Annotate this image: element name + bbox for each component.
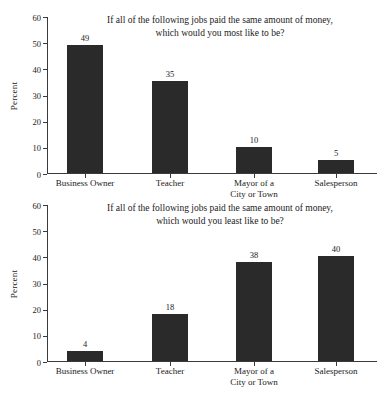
x-axis-category-label: Salesperson xyxy=(276,366,386,377)
y-tick-mark xyxy=(43,43,47,44)
y-tick: 30 xyxy=(47,284,51,285)
y-tick: 60 xyxy=(47,17,51,18)
y-tick-mark xyxy=(43,17,47,18)
y-tick-mark xyxy=(43,174,47,175)
x-axis-line xyxy=(47,361,377,362)
y-tick-label: 30 xyxy=(33,280,42,289)
x-axis-category-label-line-1: Business Owner xyxy=(56,178,115,188)
plot-area: 010203040506049Business Owner35Teacher10… xyxy=(47,17,377,174)
x-axis-category-label-line-1: Teacher xyxy=(156,178,184,188)
y-tick: 30 xyxy=(47,96,51,97)
y-axis-label: Percent xyxy=(8,17,20,174)
bar: 5 xyxy=(318,160,354,173)
y-tick-mark xyxy=(43,310,47,311)
y-tick-label: 20 xyxy=(33,306,42,315)
clipped-header-text: · · · · · · xyxy=(0,0,386,3)
y-tick: 60 xyxy=(47,205,51,206)
bar: 18 xyxy=(152,314,188,361)
bar-value-label: 10 xyxy=(250,136,259,145)
bar: 35 xyxy=(152,81,188,173)
y-tick-label: 40 xyxy=(33,65,42,74)
bar: 4 xyxy=(67,351,103,361)
y-tick-mark xyxy=(43,284,47,285)
y-tick-mark xyxy=(43,148,47,149)
y-tick: 20 xyxy=(47,310,51,311)
y-tick: 50 xyxy=(47,43,51,44)
x-axis-category-label-line-1: Mayor of a xyxy=(234,366,274,376)
x-axis-line xyxy=(47,173,377,174)
plot-area: 01020304050604Business Owner18Teacher38M… xyxy=(47,205,377,362)
y-tick-mark xyxy=(43,336,47,337)
bar: 10 xyxy=(236,147,272,173)
bar-value-label: 4 xyxy=(83,340,87,349)
y-tick: 40 xyxy=(47,257,51,258)
x-axis-category-label-line-1: Salesperson xyxy=(315,366,358,376)
y-tick-label: 10 xyxy=(33,332,42,341)
x-axis-category-label-line-1: Teacher xyxy=(156,366,184,376)
bar-value-label: 40 xyxy=(332,245,341,254)
y-tick-mark xyxy=(43,205,47,206)
y-tick-label: 50 xyxy=(33,227,42,236)
x-axis-category-label-line-1: Business Owner xyxy=(56,366,115,376)
x-axis-category-label-line-2: City or Town xyxy=(194,377,314,388)
figure-page: · · · · · · If all of the following jobs… xyxy=(0,0,386,403)
y-tick-mark xyxy=(43,96,47,97)
y-tick: 10 xyxy=(47,336,51,337)
bar-value-label: 5 xyxy=(334,149,338,158)
y-tick-label: 50 xyxy=(33,39,42,48)
y-tick-mark xyxy=(43,69,47,70)
y-tick-label: 60 xyxy=(33,201,42,210)
bar: 49 xyxy=(67,45,103,173)
y-tick: 40 xyxy=(47,69,51,70)
y-tick-mark xyxy=(43,362,47,363)
bar: 38 xyxy=(236,262,272,361)
y-tick-label: 40 xyxy=(33,253,42,262)
bar-value-label: 18 xyxy=(166,303,175,312)
y-tick-label: 30 xyxy=(33,92,42,101)
y-tick-mark xyxy=(43,231,47,232)
y-tick: 0 xyxy=(47,362,51,363)
y-tick: 10 xyxy=(47,148,51,149)
bar-value-label: 38 xyxy=(250,251,259,260)
x-axis-category-label-line-1: Salesperson xyxy=(315,178,358,188)
x-axis-category-label: Salesperson xyxy=(276,178,386,189)
y-tick-label: 10 xyxy=(33,144,42,153)
bar-value-label: 49 xyxy=(81,34,90,43)
bar: 40 xyxy=(318,256,354,361)
chart-least-like-to-be: If all of the following jobs paid the sa… xyxy=(0,196,386,403)
bar-value-label: 35 xyxy=(166,70,175,79)
x-axis-category-label-line-1: Mayor of a xyxy=(234,178,274,188)
chart-most-like-to-be: If all of the following jobs paid the sa… xyxy=(0,8,386,204)
y-axis-label: Percent xyxy=(8,205,20,362)
y-tick-label: 20 xyxy=(33,118,42,127)
y-tick: 50 xyxy=(47,231,51,232)
y-tick-mark xyxy=(43,257,47,258)
y-tick: 0 xyxy=(47,174,51,175)
y-tick-mark xyxy=(43,122,47,123)
y-tick: 20 xyxy=(47,122,51,123)
y-tick-label: 60 xyxy=(33,13,42,22)
